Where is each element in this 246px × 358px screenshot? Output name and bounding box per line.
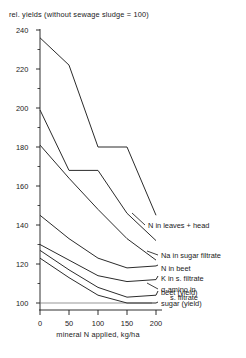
x-axis-ticks (40, 310, 156, 315)
x-tick-50: 50 (65, 319, 73, 328)
x-tick-0: 0 (38, 319, 42, 328)
series-tail-5 (156, 291, 158, 295)
series-label-n-in-beet: N in beet (161, 264, 191, 273)
chart-title: rel. yields (without sewage sludge = 100… (9, 10, 149, 19)
series-label-sugar-yield: sugar (yield) (161, 299, 202, 308)
x-axis-label: mineral N applied, kg/ha (56, 330, 140, 339)
series-tail-6 (156, 302, 158, 303)
series-tail-3 (156, 265, 158, 266)
series-label-na-in-sugar-filtrate: Na in sugar filtrate (161, 251, 221, 260)
series-line-2 (40, 145, 156, 260)
series-label-n-in-leaves-head: N in leaves + head (148, 221, 209, 230)
y-tick-180: 180 (16, 143, 28, 152)
y-tick-220: 220 (16, 65, 28, 74)
series-line-0 (40, 38, 156, 215)
series-line-3 (40, 215, 156, 268)
y-tick-240: 240 (16, 26, 28, 35)
y-tick-200: 200 (16, 104, 28, 113)
y-tick-160: 160 (16, 182, 28, 191)
relative-yields-line-chart: rel. yields (without sewage sludge = 100… (0, 0, 246, 358)
x-tick-150: 150 (121, 319, 133, 328)
x-tick-100: 100 (92, 319, 104, 328)
series-layer (40, 38, 158, 303)
y-tick-100: 100 (16, 299, 28, 308)
y-tick-120: 120 (16, 260, 28, 269)
y-tick-140: 140 (16, 221, 28, 230)
x-tick-200: 200 (150, 319, 162, 328)
series-label-k-in-s-filtrate: K in s. filtrate (161, 274, 204, 283)
y-axis-ticks (36, 30, 40, 303)
series-tail-4 (156, 276, 158, 280)
series-label-beet-yield: beet (yield) (161, 288, 198, 297)
series-line-4 (40, 245, 156, 282)
series-line-5 (40, 250, 156, 297)
